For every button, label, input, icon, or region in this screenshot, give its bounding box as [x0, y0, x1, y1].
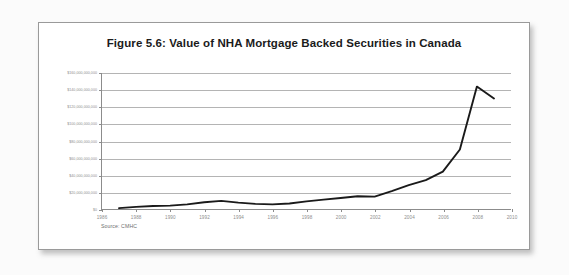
y-axis-tick-label: $20,000,000,000 [69, 191, 97, 195]
x-tick-mark [478, 209, 479, 212]
x-axis-tick-label: 1994 [233, 215, 244, 220]
x-tick-mark [512, 209, 513, 212]
x-axis-tick-label: 2008 [473, 215, 484, 220]
x-axis-tick-label: 1998 [302, 215, 313, 220]
y-axis-tick-label: $160,000,000,000 [67, 71, 97, 75]
x-tick-mark [239, 209, 240, 212]
x-tick-mark [273, 209, 274, 212]
x-axis-tick-label: 1988 [131, 215, 142, 220]
x-tick-mark [375, 209, 376, 212]
x-tick-mark [341, 209, 342, 212]
x-axis-tick-label: 1990 [165, 215, 176, 220]
x-axis-tick-label: 2002 [370, 215, 381, 220]
x-axis-tick-label: 1986 [97, 215, 108, 220]
y-axis-tick-label: $80,000,000,000 [69, 140, 97, 144]
x-tick-mark [170, 209, 171, 212]
x-axis-tick-label: 1996 [268, 215, 279, 220]
y-axis-tick-label: $40,000,000,000 [69, 174, 97, 178]
x-axis-tick-label: 2006 [438, 215, 449, 220]
x-tick-mark [307, 209, 308, 212]
series-polyline [119, 87, 494, 209]
x-tick-mark [444, 209, 445, 212]
y-axis-tick-label: $60,000,000,000 [69, 157, 97, 161]
chart-plot-area: $0$20,000,000,000$40,000,000,000$60,000,… [101, 73, 511, 210]
figure-card: Figure 5.6: Value of NHA Mortgage Backed… [38, 22, 530, 250]
x-tick-mark [410, 209, 411, 212]
x-axis-tick-label: 2010 [507, 215, 518, 220]
y-axis-tick-label: $140,000,000,000 [67, 88, 97, 92]
x-tick-mark [136, 209, 137, 212]
y-axis-tick-label: $0 [93, 208, 97, 212]
line-series [102, 73, 511, 209]
x-tick-mark [102, 209, 103, 212]
x-tick-mark [205, 209, 206, 212]
screenshot-stage: Figure 5.6: Value of NHA Mortgage Backed… [0, 0, 569, 275]
x-axis-tick-label: 2004 [404, 215, 415, 220]
x-axis-tick-label: 2000 [336, 215, 347, 220]
x-axis-tick-label: 1992 [199, 215, 210, 220]
source-note: Source: CMHC [101, 223, 137, 229]
y-axis-tick-label: $100,000,000,000 [67, 122, 97, 126]
y-axis-tick-label: $120,000,000,000 [67, 105, 97, 109]
chart-plot-wrapper: $0$20,000,000,000$40,000,000,000$60,000,… [101, 73, 511, 210]
page-title: Figure 5.6: Value of NHA Mortgage Backed… [39, 37, 529, 49]
